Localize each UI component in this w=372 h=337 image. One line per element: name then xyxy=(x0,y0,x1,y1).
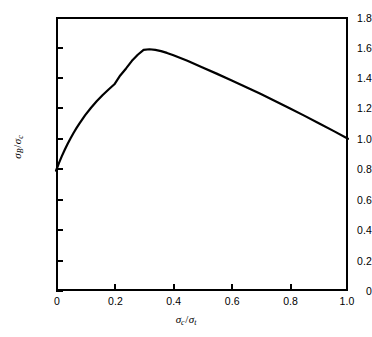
x-tick-mark xyxy=(231,284,233,291)
y-tick-label: 0.2 xyxy=(324,256,372,267)
data-series-line xyxy=(56,49,348,170)
x-axis-title-den-sub: t xyxy=(194,318,196,327)
y-tick-mark xyxy=(56,199,63,201)
x-tick-mark xyxy=(56,284,58,291)
plot-canvas xyxy=(56,17,348,291)
y-tick-mark xyxy=(56,138,63,140)
x-tick-mark xyxy=(173,284,175,291)
y-tick-mark xyxy=(56,229,63,231)
y-axis-title-den-symbol: σ xyxy=(11,139,23,144)
x-tick-label: 0.2 xyxy=(95,296,135,307)
y-tick-label: 0.8 xyxy=(324,164,372,175)
y-tick-mark xyxy=(56,77,63,79)
y-tick-mark xyxy=(56,17,63,19)
y-axis-title-den-sub: c xyxy=(16,135,25,139)
y-tick-label: 1.0 xyxy=(324,134,372,145)
y-tick-label: 0.4 xyxy=(324,225,372,236)
y-axis-title: σB/σc xyxy=(11,117,25,177)
y-tick-mark xyxy=(56,107,63,109)
x-tick-mark xyxy=(290,284,292,291)
x-tick-label: 0.4 xyxy=(154,296,194,307)
x-tick-mark xyxy=(114,284,116,291)
y-axis-title-num-sub: B xyxy=(16,148,25,153)
x-tick-mark xyxy=(346,284,348,291)
x-tick-label: 0.8 xyxy=(271,296,311,307)
y-tick-label: 0.6 xyxy=(324,195,372,206)
y-tick-mark xyxy=(56,168,63,170)
x-tick-label: 1.0 xyxy=(327,296,367,307)
x-tick-label: 0 xyxy=(37,296,77,307)
x-axis-title: σc/σt xyxy=(0,313,372,327)
y-axis-title-num-symbol: σ xyxy=(11,153,23,158)
y-tick-mark xyxy=(56,260,63,262)
figure-container: 0 0.2 0.4 0.6 0.8 1.0 1.2 1.4 1.6 1.8 0 … xyxy=(0,0,372,337)
x-tick-label: 0.6 xyxy=(212,296,252,307)
y-tick-label: 1.4 xyxy=(324,73,372,84)
y-tick-label: 1.6 xyxy=(324,43,372,54)
y-axis-title-slash: / xyxy=(11,144,23,148)
y-tick-label: 1.8 xyxy=(324,13,372,24)
y-tick-label: 1.2 xyxy=(324,103,372,114)
y-tick-mark xyxy=(56,47,63,49)
